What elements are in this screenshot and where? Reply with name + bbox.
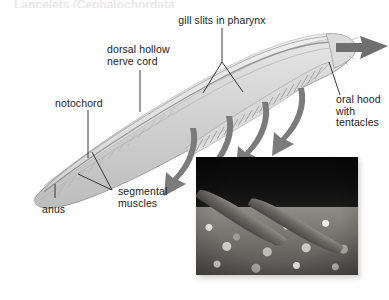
- lancelet-figure: Lancelets (Cephalochordata): [0, 0, 389, 300]
- label-gill-slits: gill slits in pharynx: [168, 15, 276, 27]
- label-dorsal-nerve-cord: dorsal hollow nerve cord: [107, 44, 170, 67]
- label-anus: anus: [42, 204, 65, 216]
- label-notochord: notochord: [55, 98, 103, 110]
- lancelet-photograph: [196, 157, 358, 275]
- label-segmental-muscles: segmental muscles: [118, 186, 167, 209]
- label-oral-hood: oral hood with tentacles: [336, 94, 381, 129]
- photo-vignette: [196, 157, 358, 275]
